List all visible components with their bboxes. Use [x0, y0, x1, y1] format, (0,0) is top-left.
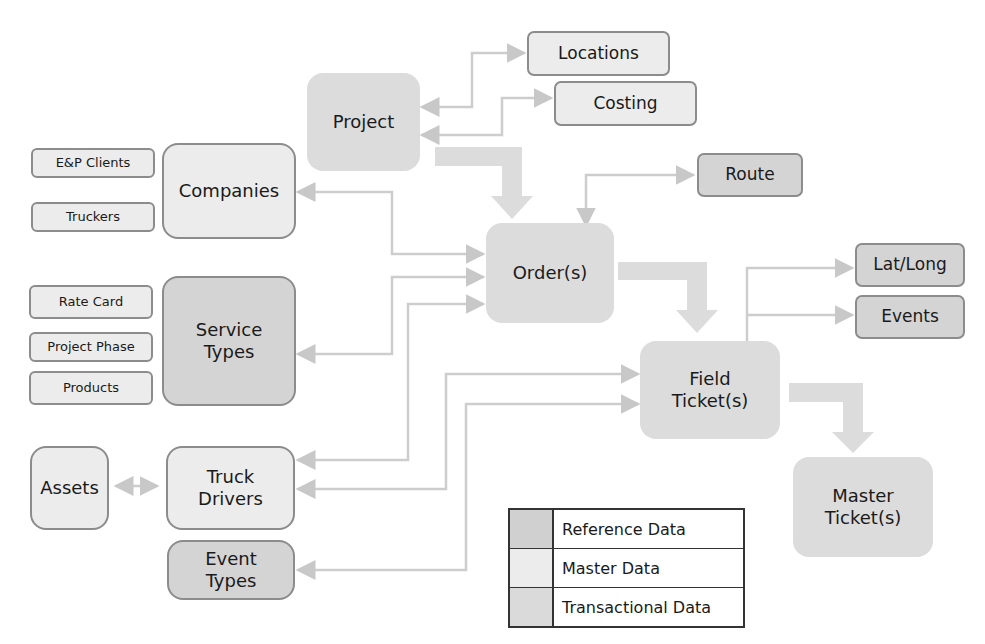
node-project[interactable]: Project — [307, 73, 420, 171]
node-costing[interactable]: Costing — [554, 81, 697, 126]
node-project-phase[interactable]: Project Phase — [29, 332, 153, 362]
node-products[interactable]: Products — [29, 371, 153, 405]
node-orders[interactable]: Order(s) — [486, 223, 614, 323]
legend-swatch-transactional — [510, 588, 554, 626]
node-ep-clients[interactable]: E&P Clients — [31, 148, 155, 178]
legend-label: Master Data — [554, 549, 660, 587]
legend-label: Transactional Data — [554, 588, 711, 626]
node-truck-drivers[interactable]: Truck Drivers — [166, 446, 295, 530]
node-field-tickets[interactable]: Field Ticket(s) — [640, 341, 780, 439]
legend-swatch-reference — [510, 510, 554, 548]
node-rate-card[interactable]: Rate Card — [29, 285, 153, 319]
legend-item-master: Master Data — [510, 549, 743, 588]
node-master-tickets[interactable]: Master Ticket(s) — [793, 457, 933, 557]
node-events[interactable]: Events — [855, 295, 965, 339]
node-assets[interactable]: Assets — [30, 446, 109, 530]
node-route[interactable]: Route — [697, 153, 803, 197]
legend-item-transactional: Transactional Data — [510, 588, 743, 626]
legend-swatch-master — [510, 549, 554, 587]
legend: Reference Data Master Data Transactional… — [508, 508, 745, 628]
legend-item-reference: Reference Data — [510, 510, 743, 549]
node-event-types[interactable]: Event Types — [167, 540, 295, 600]
node-lat-long[interactable]: Lat/Long — [855, 243, 965, 287]
legend-label: Reference Data — [554, 510, 686, 548]
node-truckers[interactable]: Truckers — [31, 202, 155, 232]
node-locations[interactable]: Locations — [527, 31, 670, 76]
node-service-types[interactable]: Service Types — [162, 276, 296, 406]
node-companies[interactable]: Companies — [162, 143, 296, 239]
